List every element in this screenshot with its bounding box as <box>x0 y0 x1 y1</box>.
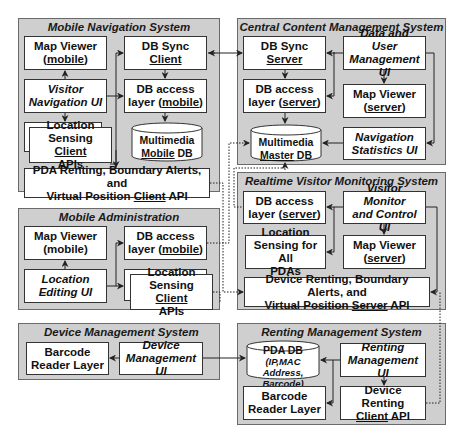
system-title: Mobile Navigation System <box>19 21 219 33</box>
multimedia-mobile-db: MultimediaMobile DB <box>131 122 203 162</box>
system-title: Mobile Administration <box>19 211 219 223</box>
pda-renting-client-api: PDA Renting, Boundary Alerts, andVirtual… <box>24 168 210 198</box>
device-management-ui: DeviceManagement UI <box>119 342 203 375</box>
multimedia-master-db: MultimediaMaster DB <box>250 124 322 162</box>
location-sensing-client-apis-admin: LocationSensing ClientAPIs <box>130 274 213 310</box>
visitor-navigation-ui: VisitorNavigation UI <box>24 79 107 113</box>
map-viewer-server-central: Map Viewer(server) <box>343 84 426 118</box>
navigation-statistics-ui: NavigationStatistics UI <box>343 127 426 160</box>
db-access-layer-mobile-nav: DB accesslayer (mobile) <box>124 79 207 113</box>
map-viewer-mobile: Map Viewer(mobile) <box>24 36 107 70</box>
device-renting-server-api: Device Renting, Boundary Alerts, andVirt… <box>244 277 430 307</box>
db-access-layer-mobile-admin: DB accesslayer (mobile) <box>124 226 207 260</box>
pda-db: PDA DB(IP,MAC Address,Barcode) <box>246 340 320 380</box>
db-sync-server: DB SyncServer <box>243 36 326 70</box>
db-sync-client: DB SyncClient <box>124 36 207 70</box>
location-sensing-client-apis: LocationSensing ClientAPIs <box>29 127 112 163</box>
barcode-reader-layer-renting: BarcodeReader Layer <box>243 386 326 420</box>
visitor-monitor-control-ui: Visitor Monitorand Control UI <box>343 191 426 224</box>
renting-management-ui: RentingManagement UI <box>340 343 426 377</box>
map-viewer-server-realtime: Map Viewer(server) <box>343 235 426 269</box>
data-user-management-ui: Data and UserManagement UI <box>343 36 426 70</box>
db-access-layer-server-central: DB accesslayer (server) <box>243 79 326 113</box>
system-title: Device Management System <box>44 326 219 338</box>
map-viewer-mobile-admin: Map Viewer(mobile) <box>24 226 107 260</box>
system-title: Renting Management System <box>238 326 445 338</box>
db-access-layer-server-realtime: DB accesslayer (server) <box>243 191 326 224</box>
barcode-reader-layer-device: BarcodeReader Layer <box>26 342 109 375</box>
device-renting-client-api: Device RentingClient API <box>340 386 426 420</box>
location-sensing-all-pdas: LocationSensing for AllPDAs <box>245 235 326 269</box>
location-editing-ui: LocationEditing UI <box>24 269 107 303</box>
